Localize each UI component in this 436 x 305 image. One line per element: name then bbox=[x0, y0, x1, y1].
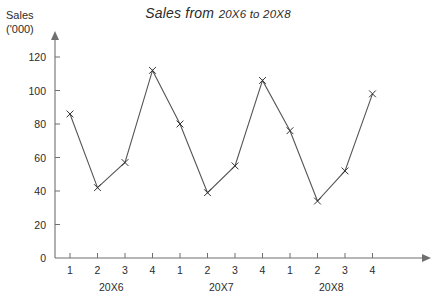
x-group-label: 20X6 bbox=[99, 281, 124, 293]
y-tick-label: 0 bbox=[40, 252, 46, 264]
x-tick-label: 4 bbox=[260, 264, 266, 276]
data-point-marker bbox=[232, 162, 239, 169]
x-axis-group-labels: 20X620X720X8 bbox=[99, 281, 344, 293]
y-tick-label: 120 bbox=[28, 51, 46, 63]
x-axis-ticks: 123412341234 bbox=[67, 253, 376, 276]
x-group-label: 20X8 bbox=[319, 281, 344, 293]
x-group-label: 20X7 bbox=[209, 281, 234, 293]
y-tick-label: 20 bbox=[34, 219, 46, 231]
x-tick-label: 2 bbox=[315, 264, 321, 276]
y-tick-label: 60 bbox=[34, 152, 46, 164]
data-point-marker bbox=[314, 198, 321, 205]
data-point-marker bbox=[259, 77, 266, 84]
x-tick-label: 1 bbox=[287, 264, 293, 276]
data-series bbox=[67, 67, 376, 204]
x-tick-label: 2 bbox=[205, 264, 211, 276]
data-point-marker bbox=[94, 184, 101, 191]
x-tick-label: 4 bbox=[370, 264, 376, 276]
x-tick-label: 3 bbox=[232, 264, 238, 276]
data-point-marker bbox=[342, 168, 349, 175]
data-point-marker bbox=[177, 121, 184, 128]
x-tick-label: 3 bbox=[122, 264, 128, 276]
data-point-marker bbox=[67, 111, 74, 118]
data-point-marker bbox=[369, 90, 376, 97]
y-axis-arrow bbox=[51, 31, 59, 40]
x-axis-arrow bbox=[422, 254, 431, 262]
y-tick-label: 100 bbox=[28, 85, 46, 97]
y-tick-label: 80 bbox=[34, 118, 46, 130]
y-tick-label: 40 bbox=[34, 185, 46, 197]
x-tick-label: 3 bbox=[342, 264, 348, 276]
x-tick-label: 4 bbox=[150, 264, 156, 276]
data-point-marker bbox=[149, 67, 156, 74]
x-tick-label: 2 bbox=[95, 264, 101, 276]
x-tick-label: 1 bbox=[177, 264, 183, 276]
x-tick-label: 1 bbox=[67, 264, 73, 276]
data-point-marker bbox=[122, 159, 129, 166]
data-point-marker bbox=[287, 127, 294, 134]
plot-area: 020406080100120 123412341234 20X620X720X… bbox=[0, 0, 436, 305]
series-line bbox=[70, 70, 373, 201]
sales-line-chart: Sales from 20X6 to 20X8 Sales ('000) 020… bbox=[0, 0, 436, 305]
data-point-marker bbox=[204, 189, 211, 196]
